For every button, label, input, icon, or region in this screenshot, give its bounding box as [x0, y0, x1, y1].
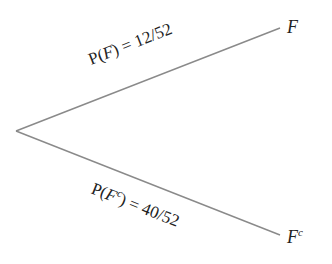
outcome-superscript: c [298, 226, 303, 238]
outcome-label-f: F [287, 18, 298, 36]
outcome-text: F [287, 227, 298, 247]
outcome-label-f-complement: Fc [287, 227, 303, 246]
outcome-text: F [287, 17, 298, 37]
probability-tree-diagram: P(F) = 12/52 P(Fc) = 40/52 F Fc [0, 0, 332, 264]
